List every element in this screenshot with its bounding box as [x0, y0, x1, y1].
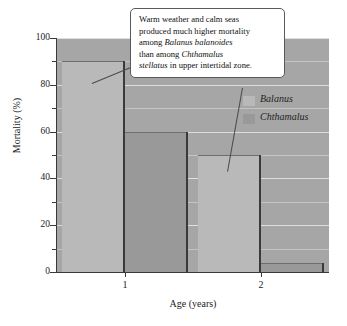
callout-line-3: among Balanus balanoides — [139, 37, 277, 49]
bar-face — [125, 132, 188, 272]
bar-top-edge — [62, 61, 125, 62]
x-tick-label: 2 — [251, 279, 271, 290]
bar-balanus-year-1 — [62, 61, 125, 272]
y-tick-label: 40 — [24, 172, 50, 182]
legend-label-chthamalus: Chthamalus — [260, 111, 308, 122]
bar-balanus-year-2 — [198, 155, 261, 272]
legend-swatch-balanus — [243, 96, 255, 106]
y-tick-label: 100 — [24, 32, 50, 42]
bar-face — [261, 263, 324, 272]
x-tick — [261, 272, 262, 277]
x-axis-line — [56, 272, 329, 273]
y-axis-title: Mortality (%) — [11, 66, 22, 186]
x-tick — [125, 272, 126, 277]
callout-line-4: than among Chthamalus — [139, 49, 277, 61]
y-tick-label: 80 — [24, 79, 50, 89]
y-tick-minor — [52, 108, 56, 109]
bar-chthamalus-year-1 — [125, 132, 188, 272]
y-tick-minor — [52, 155, 56, 156]
y-tick-minor — [52, 61, 56, 62]
bar-right-edge — [259, 155, 261, 272]
annotation-callout: Warm weather and calm seas produced much… — [130, 8, 285, 78]
bar-right-edge — [186, 132, 188, 272]
legend-label-balanus: Balanus — [260, 93, 293, 104]
bar-top-edge — [261, 263, 324, 264]
figure-canvas: Mortality (%) Age (years) Balanus Chtham… — [0, 0, 347, 326]
y-tick-label: 60 — [24, 126, 50, 136]
y-tick-label: 20 — [24, 219, 50, 229]
y-tick-major — [50, 225, 56, 226]
bar-face — [198, 155, 261, 272]
callout-line-2: produced much higher mortality — [139, 26, 277, 38]
bar-face — [62, 61, 125, 272]
x-tick-label: 1 — [115, 279, 135, 290]
y-tick-minor — [52, 202, 56, 203]
y-tick-major — [50, 178, 56, 179]
bar-chthamalus-year-2 — [261, 263, 324, 272]
callout-line-5: stellatus in upper intertidal zone. — [139, 60, 277, 72]
y-tick-major — [50, 272, 56, 273]
y-tick-minor — [52, 249, 56, 250]
legend-swatch-chthamalus — [243, 114, 255, 124]
y-tick-major — [50, 132, 56, 133]
bar-top-edge — [125, 132, 188, 133]
bar-right-edge — [322, 263, 324, 272]
x-axis-title: Age (years) — [57, 298, 329, 309]
y-tick-major — [50, 85, 56, 86]
y-tick-label: 0 — [24, 266, 50, 276]
y-tick-major — [50, 38, 56, 39]
callout-line-1: Warm weather and calm seas — [139, 14, 277, 26]
y-axis-line — [56, 38, 57, 273]
